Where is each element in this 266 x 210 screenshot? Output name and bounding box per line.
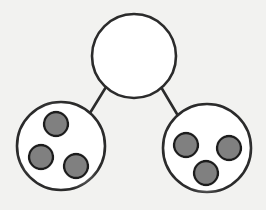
node-diagram	[0, 0, 266, 210]
dot-bl-dot-1[interactable]	[44, 112, 68, 136]
dot-br-dot-3[interactable]	[194, 161, 218, 185]
dot-bl-dot-2[interactable]	[29, 145, 53, 169]
dot-br-dot-1[interactable]	[174, 133, 198, 157]
diagram-canvas	[0, 0, 266, 210]
dot-bl-dot-3[interactable]	[64, 154, 88, 178]
node-bottom-right[interactable]	[163, 104, 251, 192]
node-bottom-left[interactable]	[17, 102, 105, 190]
dot-br-dot-2[interactable]	[217, 136, 241, 160]
node-top[interactable]	[92, 14, 176, 98]
node-outline-top[interactable]	[92, 14, 176, 98]
